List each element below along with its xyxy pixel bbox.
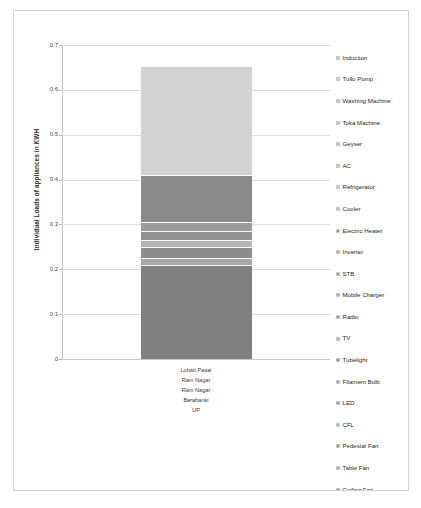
legend-item[interactable]: Filament Bulb [336, 371, 409, 393]
legend-item-label: TV [343, 335, 351, 341]
legend-swatch-icon [336, 315, 340, 319]
bar-segment[interactable] [141, 222, 252, 231]
y-axis-tick-label: 0.3 [32, 221, 58, 227]
legend-item-label: Geyser [343, 141, 363, 147]
bar-segment[interactable] [141, 265, 252, 359]
y-axis-tick-mark [59, 224, 62, 225]
gridline [62, 45, 330, 46]
legend-item-label: Washing Machine [343, 98, 391, 104]
x-axis-category-label: Ram Nagar [62, 383, 330, 393]
plot-area: 0.70.60.50.40.30.20.10 [62, 45, 330, 359]
x-axis-category-label: Barabanki [62, 394, 330, 404]
bar-segment[interactable] [141, 240, 252, 247]
y-axis-tick-mark [59, 314, 62, 315]
y-axis-tick-label: 0.1 [32, 311, 58, 317]
legend-item-label: Radio [343, 314, 359, 320]
legend-swatch-icon [336, 56, 340, 60]
y-axis-line [62, 45, 63, 360]
legend-item-label: Filament Bulb [343, 379, 380, 385]
legend-swatch-icon [336, 77, 340, 81]
legend-swatch-icon [336, 185, 340, 189]
y-axis-tick-mark [59, 135, 62, 136]
legend-item-label: Electric Heater [343, 228, 383, 234]
bar-segment[interactable] [141, 175, 252, 222]
y-axis-tick-label: 0 [32, 356, 58, 362]
y-axis-tick-label: 0.7 [32, 42, 58, 48]
legend-item-label: Pedestal Fan [343, 443, 379, 449]
legend-item[interactable]: Ceiling Fan [336, 479, 409, 491]
legend-item[interactable]: Induction [336, 47, 409, 69]
legend-item[interactable]: Table Fan [336, 457, 409, 479]
legend-item[interactable]: Tullu Pump [336, 69, 409, 91]
legend-item[interactable]: Cooler [336, 198, 409, 220]
bar-segment[interactable] [141, 247, 252, 258]
legend-item-label: Toka Machine [343, 120, 381, 126]
legend-item[interactable]: STB [336, 263, 409, 285]
legend-swatch-icon [336, 401, 340, 405]
stacked-bar-lohatt-pasai[interactable] [141, 66, 252, 359]
legend-swatch-icon [336, 337, 340, 341]
legend-swatch-icon [336, 488, 340, 491]
legend-swatch-icon [336, 272, 340, 276]
chart-legend: InductionTullu PumpWashing MachineToka M… [336, 47, 409, 491]
legend-item-label: Inverter [343, 249, 364, 255]
legend-swatch-icon [336, 423, 340, 427]
legend-item[interactable]: Geyser [336, 133, 409, 155]
legend-item[interactable]: AC [336, 155, 409, 177]
legend-item-label: Table Fan [343, 465, 370, 471]
legend-item[interactable]: Washing Machine [336, 90, 409, 112]
y-axis-tick-mark [59, 45, 62, 46]
legend-item-label: CFL [343, 422, 355, 428]
legend-item[interactable]: Toka Machine [336, 112, 409, 134]
legend-swatch-icon [336, 121, 340, 125]
y-axis-tick-mark [59, 269, 62, 270]
legend-item[interactable]: Tubelight [336, 349, 409, 371]
bar-segment[interactable] [141, 231, 252, 240]
legend-swatch-icon [336, 466, 340, 470]
legend-swatch-icon [336, 444, 340, 448]
y-axis-tick-mark [59, 359, 62, 360]
chart-container: Individual Loads of appliances in KWH 0.… [13, 10, 409, 491]
legend-item[interactable]: Mobile Charger [336, 285, 409, 307]
legend-swatch-icon [336, 380, 340, 384]
y-axis-tick-label: 0.6 [32, 86, 58, 92]
x-axis-category-label: Lohatt Pasai [62, 363, 330, 373]
y-axis-tick-mark [59, 90, 62, 91]
y-axis-tick-label: 0.4 [32, 176, 58, 182]
legend-item-label: STB [343, 271, 355, 277]
legend-item-label: LED [343, 400, 355, 406]
legend-swatch-icon [336, 358, 340, 362]
legend-item-label: Tubelight [343, 357, 368, 363]
legend-item-label: Tullu Pump [343, 76, 374, 82]
y-axis-tick-label: 0.2 [32, 266, 58, 272]
legend-swatch-icon [336, 164, 340, 168]
x-axis-category-label: UP [62, 404, 330, 414]
legend-item[interactable]: Radio [336, 306, 409, 328]
legend-item-label: Mobile Charger [343, 292, 385, 298]
legend-item[interactable]: Refrigerator [336, 177, 409, 199]
legend-item-label: Induction [343, 55, 368, 61]
x-axis-category-label: Ram Nagar [62, 373, 330, 383]
legend-item-label: Refrigerator [343, 184, 375, 190]
y-axis-tick-label: 0.5 [32, 131, 58, 137]
legend-item-label: Ceiling Fan [343, 487, 374, 491]
legend-item[interactable]: Pedestal Fan [336, 436, 409, 458]
legend-item-label: Cooler [343, 206, 361, 212]
legend-swatch-icon [336, 99, 340, 103]
legend-item[interactable]: Electric Heater [336, 220, 409, 242]
legend-swatch-icon [336, 207, 340, 211]
bar-segment[interactable] [141, 258, 252, 265]
legend-item[interactable]: Inverter [336, 241, 409, 263]
legend-swatch-icon [336, 250, 340, 254]
y-axis-tick-mark [59, 180, 62, 181]
gridline [62, 359, 330, 360]
legend-item-label: AC [343, 163, 351, 169]
legend-swatch-icon [336, 229, 340, 233]
bar-segment[interactable] [141, 66, 252, 175]
legend-item[interactable]: LED [336, 393, 409, 415]
x-axis-category-labels: Lohatt PasaiRam NagarRam NagarBarabankiU… [62, 363, 330, 414]
legend-swatch-icon [336, 293, 340, 297]
legend-item[interactable]: CFL [336, 414, 409, 436]
legend-item[interactable]: TV [336, 328, 409, 350]
legend-swatch-icon [336, 142, 340, 146]
